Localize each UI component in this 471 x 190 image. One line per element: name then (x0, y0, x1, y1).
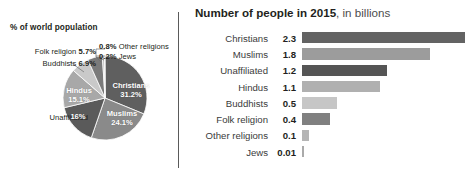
bar-row-label: Other religions (190, 130, 273, 141)
pie-slice-label-muslims-value: 24.1% (111, 118, 133, 127)
pie-slice-label-unaffiliated-value: 16% (64, 112, 92, 121)
pie-slice-label-hindus: Hindus 15.1% (62, 86, 96, 104)
bar-row: Jews0.01 (190, 144, 471, 160)
bar-row: Muslims1.8 (190, 46, 471, 62)
bar-row: Folk religion0.4 (190, 111, 471, 127)
bar-track (302, 30, 471, 46)
pie-label-folk-religion: Folk religion 5.7% (8, 47, 96, 56)
pie-label-jews-value: 0.2% (99, 52, 117, 61)
pie-slice-jews (104, 56, 105, 98)
bar-track (302, 128, 471, 144)
bar-row-label: Buddhists (190, 98, 273, 109)
bar-row: Hindus1.1 (190, 79, 471, 95)
bar-row-value: 0.01 (273, 147, 302, 158)
bar-fill (302, 113, 330, 124)
bar-row: Christians2.3 (190, 30, 471, 46)
pie-label-jews: 0.2% Jews (99, 52, 136, 61)
pie-label-folk-religion-value: 5.7% (78, 47, 96, 56)
pie-label-other-religions-name: Other religions (119, 42, 169, 51)
bar-fill (302, 97, 337, 108)
pie-slice-label-hindus-value: 15.1% (68, 95, 90, 104)
pie-label-jews-name: Jews (119, 52, 137, 61)
bar-row-value: 1.2 (273, 65, 302, 76)
bar-row-label: Unaffiliated (190, 65, 273, 76)
bar-fill (302, 130, 309, 141)
pie-slice-label-christians-value: 31.2% (120, 90, 142, 99)
bar-chart-title-light: , in billions (336, 6, 390, 19)
bar-row-value: 1.1 (273, 82, 302, 93)
bar-fill (302, 81, 380, 92)
bar-row-label: Christians (190, 33, 273, 44)
pie-label-buddhists-value: 6.9% (78, 59, 96, 68)
bar-fill (302, 32, 465, 43)
bar-chart-title-strong: Number of people in 2015 (195, 6, 336, 19)
pie-slice-label-muslims: Muslims 24.1% (100, 109, 144, 127)
infographic-root: % of world population Folk religion 5.7%… (0, 0, 471, 190)
bar-row-label: Folk religion (190, 114, 273, 125)
bar-track (302, 95, 471, 111)
bar-row-value: 0.1 (273, 130, 302, 141)
pie-label-other-religions-value: 0.8% (99, 42, 117, 51)
bar-row-label: Hindus (190, 82, 273, 93)
pie-label-folk-religion-name: Folk religion (35, 47, 77, 56)
bar-track (302, 79, 471, 95)
bar-fill (302, 146, 304, 157)
bar-row-label: Jews (190, 147, 273, 158)
bar-row-value: 0.4 (273, 114, 302, 125)
bar-chart-panel: Number of people in 2015, in billions Ch… (190, 0, 471, 190)
bar-row-value: 1.8 (273, 49, 302, 60)
pie-label-buddhists: Buddhists 6.9% (2, 59, 96, 68)
bar-fill (302, 48, 430, 59)
bar-row: Other religions0.1 (190, 128, 471, 144)
pie-slice-label-christians: Christians 31.2% (108, 81, 154, 99)
pie-slice-label-hindus-name: Hindus (66, 86, 92, 95)
pie-label-other-religions: 0.8% Other religions (99, 42, 169, 51)
bar-row: Unaffiliated1.2 (190, 63, 471, 79)
bar-chart-title: Number of people in 2015, in billions (195, 6, 390, 19)
bar-fill (302, 65, 387, 76)
bar-track (302, 46, 471, 62)
pie-chart-panel: % of world population Folk religion 5.7%… (0, 0, 178, 190)
panel-divider (178, 12, 179, 168)
pie-slice-label-christians-name: Christians (112, 81, 149, 90)
bar-row: Buddhists0.5 (190, 95, 471, 111)
bar-row-value: 0.5 (273, 98, 302, 109)
bar-track (302, 144, 471, 160)
pie-label-buddhists-name: Buddhists (43, 59, 77, 68)
bar-chart-rows: Christians2.3Muslims1.8Unaffiliated1.2Hi… (190, 30, 471, 160)
bar-row-value: 2.3 (273, 33, 302, 44)
bar-track (302, 63, 471, 79)
pie-slice-label-muslims-name: Muslims (107, 109, 137, 118)
bar-track (302, 111, 471, 127)
bar-row-label: Muslims (190, 49, 273, 60)
